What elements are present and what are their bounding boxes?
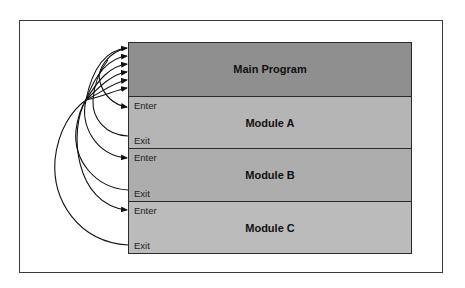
line-exit-c — [55, 100, 128, 245]
line-exit-b — [76, 100, 128, 190]
line-exit-a — [93, 60, 128, 136]
call-return-arrows — [0, 0, 465, 288]
